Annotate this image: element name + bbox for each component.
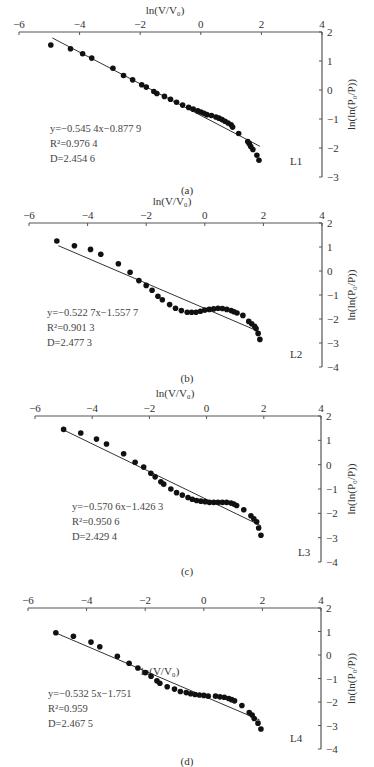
data-point (234, 503, 240, 509)
x-tick-label: −2 (134, 18, 146, 30)
data-point (258, 726, 264, 732)
fit-annotation: y=−0.532 5x−1.751 (48, 688, 131, 699)
data-point (230, 124, 236, 130)
x-axis-title: ln(V/V₀) (153, 195, 192, 208)
x-tick-label: 2 (260, 594, 266, 606)
y-tick-label: 1 (326, 626, 332, 638)
fit-annotation: R²=0.976 4 (50, 138, 98, 149)
fit-annotation: R²=0.959 (48, 703, 88, 714)
data-point (168, 96, 174, 102)
data-point (179, 492, 185, 498)
data-point (104, 441, 110, 447)
data-point (241, 507, 247, 513)
series-label: L2 (290, 348, 302, 360)
fit-annotation: D=2.454 6 (50, 153, 95, 164)
data-point (78, 430, 84, 436)
data-point (48, 42, 54, 48)
data-point (142, 670, 148, 676)
data-point (61, 427, 67, 433)
y-tick-label: −3 (327, 171, 339, 183)
data-point (180, 102, 186, 108)
y-tick-label: 2 (326, 410, 332, 422)
data-point (161, 481, 167, 487)
data-point (80, 51, 86, 57)
y-tick-label: −3 (326, 532, 338, 544)
data-point (141, 464, 147, 470)
data-point (160, 297, 166, 303)
data-point (173, 305, 179, 311)
x-axis-title: ln(V/V₀) (156, 387, 195, 400)
data-point (121, 451, 127, 457)
x-tick-label: 4 (319, 18, 325, 30)
data-point (234, 310, 240, 316)
data-point (126, 660, 132, 666)
y-axis-title: ln(ln(P₀/P)) (345, 269, 358, 320)
data-point (116, 261, 122, 267)
fit-annotation: R²=0.950 6 (72, 516, 120, 527)
fit-annotation: R²=0.901 3 (47, 322, 95, 333)
x-tick-label: 4 (318, 594, 324, 606)
y-tick-label: 2 (327, 26, 333, 38)
series-label: L3 (298, 546, 311, 558)
data-point (162, 94, 168, 100)
fit-annotation: D=2.429 4 (72, 531, 118, 542)
data-point (152, 474, 158, 480)
data-point (232, 698, 238, 704)
x-tick-label: 2 (261, 209, 267, 221)
x-tick-label: −6 (13, 18, 25, 30)
x-tick-label: −4 (82, 209, 94, 221)
y-tick-label: −2 (326, 696, 338, 708)
data-point (258, 532, 264, 538)
data-point (154, 91, 160, 97)
y-axis-title: ln(ln(P₀/P)) (345, 463, 358, 514)
data-point (53, 630, 59, 636)
data-point (98, 251, 104, 257)
x-tick-label: −2 (139, 594, 151, 606)
y-tick-label: 2 (326, 602, 332, 614)
data-point (251, 716, 257, 722)
fit-annotation: D=2.467 5 (48, 718, 93, 729)
x-tick-label: −4 (81, 594, 93, 606)
data-point (256, 157, 262, 163)
x-tick-label: −6 (23, 209, 35, 221)
data-point (254, 519, 260, 525)
data-point (178, 689, 184, 695)
data-point (143, 84, 149, 90)
panel-label: (b) (181, 372, 194, 385)
y-tick-label: −4 (326, 556, 338, 568)
data-point (135, 665, 141, 671)
y-tick-label: 1 (326, 434, 332, 446)
y-tick-label: −2 (327, 142, 339, 154)
y-tick-label: 2 (327, 217, 333, 229)
data-point (88, 639, 94, 645)
data-point (172, 686, 178, 692)
x-tick-label: −4 (86, 402, 98, 414)
data-point (115, 653, 121, 659)
y-axis-title: ln(ln(P₀/P)) (345, 653, 358, 704)
y-tick-label: −4 (326, 743, 338, 755)
x-tick-label: 2 (261, 402, 267, 414)
data-point (127, 269, 133, 275)
y-tick-label: −1 (326, 673, 338, 685)
data-point (250, 147, 256, 153)
data-point (136, 278, 142, 284)
x-tick-label: 2 (259, 18, 265, 30)
x-tick-label: −6 (22, 594, 34, 606)
y-tick-label: −1 (326, 483, 338, 495)
x-tick-label: 0 (204, 402, 210, 414)
y-tick-label: −1 (327, 113, 339, 125)
x-tick-label: −2 (144, 402, 156, 414)
fit-annotation: y=−0.570 6x−1.426 3 (72, 501, 163, 512)
data-point (71, 633, 77, 639)
y-tick-label: 0 (326, 459, 332, 471)
data-point (168, 486, 174, 492)
data-point (94, 436, 100, 442)
y-tick-label: 1 (327, 55, 333, 67)
data-point (174, 99, 180, 105)
fit-annotation: D=2.477 3 (47, 337, 92, 348)
data-point (255, 720, 261, 726)
figure-canvas: −6−4−2024210−1−2−3ln(V/V₀)ln(ln(P₀/P))y=… (0, 0, 374, 767)
data-point (174, 490, 180, 496)
data-point (89, 55, 95, 61)
data-point (54, 238, 60, 244)
